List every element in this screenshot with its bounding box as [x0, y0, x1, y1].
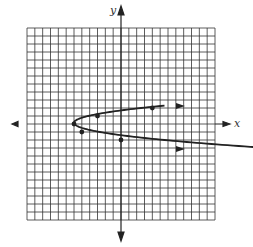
x-axis-label: x: [234, 117, 240, 130]
axes: [12, 6, 230, 241]
parabola-curve: [74, 106, 253, 149]
data-point: [72, 122, 77, 127]
data-point: [79, 130, 84, 135]
y-axis-label: y: [110, 4, 116, 17]
data-point: [95, 114, 100, 119]
data-point: [119, 138, 124, 143]
coordinate-plane: [0, 0, 253, 247]
data-point: [150, 106, 155, 111]
